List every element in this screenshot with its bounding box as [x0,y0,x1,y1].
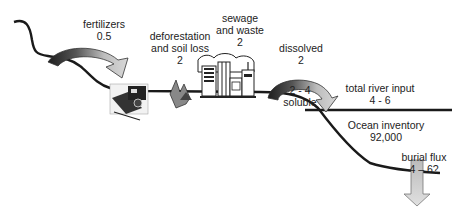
deforestation-label: deforestation and soil loss 2 [146,30,214,66]
dissolved-value: 2 [276,54,326,66]
phosphorus-flux-diagram: fertilizers 0.5 deforestation and soil l… [0,0,467,216]
ocean-inventory-label: Ocean inventory 92,000 [346,119,426,143]
river-input-name: total river input [340,82,420,94]
forest-fire-icon [170,80,192,108]
burial-flux-name: burial flux [396,151,452,163]
ocean-inventory-name: Ocean inventory [346,119,426,131]
deforestation-name-2: and soil loss [146,42,214,54]
sewage-label: sewage and waste 2 [212,12,268,48]
tractor-icon [110,84,148,120]
soluble-value: 2 - 4 [280,84,320,96]
dissolved-label: dissolved 2 [276,42,326,66]
burial-flux-label: burial flux 4 – 6? [396,151,452,175]
soluble-label: 2 - 4 soluble [280,84,320,108]
fertilizers-name: fertilizers [76,18,132,30]
soluble-name: soluble [280,96,320,108]
dissolved-name: dissolved [276,42,326,54]
river-input-value: 4 - 6 [340,94,420,106]
ocean-inventory-value: 92,000 [346,131,426,143]
deforestation-value: 2 [146,54,214,66]
river-input-label: total river input 4 - 6 [340,82,420,106]
sewage-name-1: sewage [212,12,268,24]
fertilizers-label: fertilizers 0.5 [76,18,132,42]
sewage-value: 2 [212,36,268,48]
fertilizers-value: 0.5 [76,30,132,42]
sewage-name-2: and waste [212,24,268,36]
burial-flux-value: 4 – 6? [396,163,452,175]
deforestation-name-1: deforestation [146,30,214,42]
